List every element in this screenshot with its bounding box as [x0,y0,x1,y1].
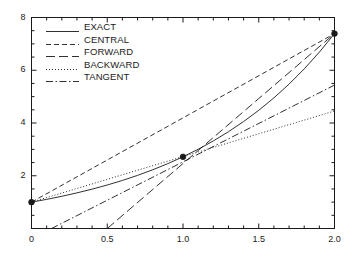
legend-item-backward: BACKWARD [46,59,139,70]
data-point-marker [29,199,35,205]
legend-line-swatch-icon [46,72,79,81]
chart-figure: 00.51.01.52.02468 EXACTCENTRALFORWARDBAC… [0,0,349,257]
legend-label: TANGENT [84,72,129,81]
series-line-forward [107,34,334,229]
legend-line-swatch-icon [46,60,79,69]
legend-item-exact: EXACT [46,21,139,32]
legend-item-central: CENTRAL [46,34,139,45]
legend-label: CENTRAL [84,35,129,44]
y-tick-label: 6 [8,64,26,74]
chart-legend: EXACTCENTRALFORWARDBACKWARDTANGENT [46,21,139,84]
data-point-marker [332,31,338,37]
y-tick-label: 2 [8,170,26,180]
legend-label: FORWARD [84,47,133,56]
x-tick-label: 1.5 [244,234,274,244]
y-tick-label: 8 [8,12,26,22]
x-tick-label: 1.0 [168,234,198,244]
x-tick-label: 0 [17,234,47,244]
legend-line-swatch-icon [46,22,79,31]
series-line-tangent [52,85,335,228]
data-point-marker [180,154,186,160]
legend-line-swatch-icon [46,35,79,44]
legend-label: EXACT [84,22,116,31]
legend-item-forward: FORWARD [46,46,139,57]
x-tick-label: 2.0 [320,234,349,244]
y-tick-label: 4 [8,117,26,127]
legend-line-swatch-icon [46,47,79,56]
x-tick-label: 0.5 [92,234,122,244]
legend-item-tangent: TANGENT [46,71,139,82]
legend-label: BACKWARD [84,60,139,69]
